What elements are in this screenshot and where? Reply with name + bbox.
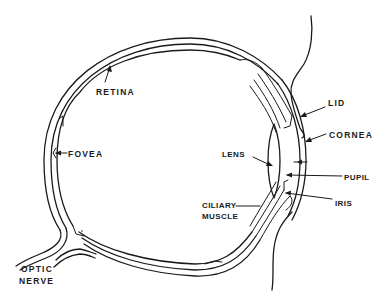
ciliary-label-line1: CILIARY — [202, 201, 237, 210]
optic-nerve-label-line2: NERVE — [19, 276, 54, 286]
label-cornea: CORNEA — [305, 130, 373, 142]
iris-lower-1 — [260, 196, 290, 240]
iris-arrow-icon — [285, 191, 291, 196]
iris — [250, 68, 292, 240]
lens — [268, 124, 280, 198]
label-optic-nerve: OPTIC NERVE — [19, 264, 54, 286]
lens-arrow-icon — [266, 161, 273, 166]
iris-lower-3 — [252, 186, 280, 232]
cornea-outer — [282, 80, 306, 220]
cornea-inner — [278, 84, 300, 216]
label-fovea: FOVEA — [55, 149, 103, 159]
eye-anatomy-diagram: RETINA FOVEA LENS LID CORNEA PUPIL I — [0, 0, 390, 298]
optic-disc-dot — [81, 230, 83, 232]
retina-label: RETINA — [96, 87, 135, 97]
pupil-leader — [287, 175, 342, 176]
retina-bottom — [79, 232, 252, 264]
cornea-label: CORNEA — [329, 130, 373, 140]
lid-label: LID — [328, 98, 345, 108]
choroid-bottom — [82, 236, 256, 270]
iris-leader — [286, 193, 332, 199]
fovea-arrow-icon — [55, 151, 61, 156]
lens-label: LENS — [222, 150, 245, 159]
iris-upper-tip — [284, 116, 292, 128]
sclera-bottom-outer — [84, 240, 260, 276]
pupil-label: PUPIL — [344, 173, 370, 182]
pupil-arrow-icon — [286, 173, 292, 178]
pupil-gap-indicator — [294, 160, 307, 165]
optic-nerve-label-line1: OPTIC — [21, 264, 53, 274]
choroid-layer — [51, 44, 278, 228]
iris-lower-flap — [284, 180, 288, 190]
lid-arrow-icon — [300, 112, 307, 117]
lower-lid-profile — [272, 212, 292, 290]
fovea-label: FOVEA — [68, 149, 103, 159]
sclera-outer — [44, 38, 282, 230]
iris-label: IRIS — [335, 199, 352, 208]
label-lid: LID — [300, 98, 345, 117]
cornea-arrow-icon — [305, 137, 312, 142]
retina-layer — [57, 50, 240, 226]
label-retina: RETINA — [96, 65, 135, 97]
ciliary-label-line2: MUSCLE — [202, 212, 238, 221]
label-ciliary-muscle: CILIARY MUSCLE — [202, 201, 260, 221]
label-lens: LENS — [222, 150, 273, 166]
